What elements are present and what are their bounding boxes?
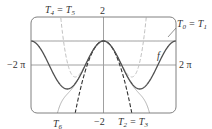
label-t2-t3: T2 = T3	[118, 116, 148, 129]
label-t4-t5: T4 = T5	[45, 4, 75, 17]
arrow-t0-t1	[168, 28, 176, 37]
x-left-label: −2 π	[7, 59, 25, 70]
taylor-polynomial-chart: 2 −2 −2 π 2 π T4 = T5 T0 = T1 f T6 T2 = …	[0, 0, 212, 129]
y-top-label: 2	[100, 5, 105, 16]
label-t0-t1: T0 = T1	[177, 18, 207, 31]
label-t6: T6	[53, 118, 63, 129]
x-right-label: 2 π	[179, 59, 192, 70]
y-bottom-label: −2	[94, 116, 105, 127]
